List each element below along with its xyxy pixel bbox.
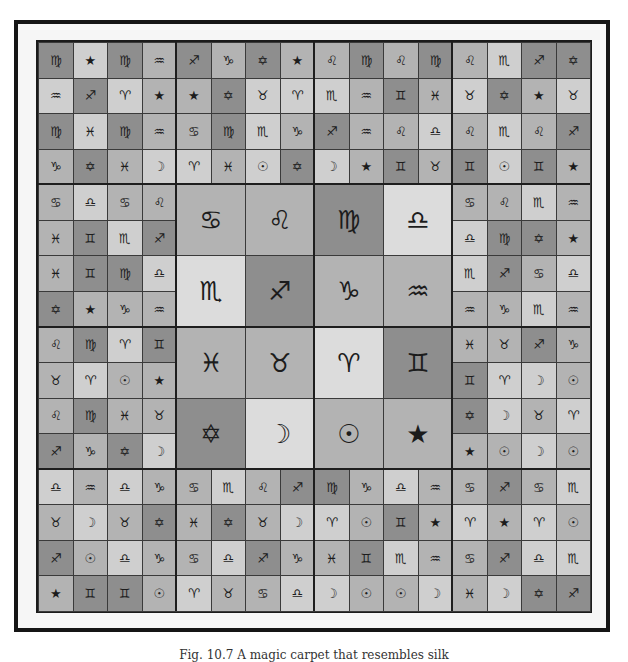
aquarius-tile: ♒ — [142, 113, 178, 150]
cancer-icon: ♋ — [533, 481, 545, 494]
sagittarius-icon: ♐ — [498, 481, 510, 494]
scorpio-tile: ♏ — [556, 540, 592, 577]
block-divider-horizontal — [38, 468, 590, 470]
aquarius-tile: ♒ — [556, 291, 592, 328]
pisces-icon: ♓ — [464, 587, 476, 600]
gemini-icon: ♊ — [464, 374, 476, 387]
sagittarius-tile: ♐ — [73, 78, 109, 115]
aries-icon: ♈ — [498, 374, 510, 387]
cancer-tile: ♋ — [452, 540, 488, 577]
cancer-tile: ♋ — [107, 184, 143, 221]
leo-tile: ♌ — [521, 113, 557, 150]
libra-tile: ♎ — [142, 255, 178, 292]
leo-icon: ♌ — [326, 54, 338, 67]
gemini-tile: ♊ — [73, 575, 109, 612]
scorpio-icon: ♏ — [464, 267, 476, 280]
virgo-tile: ♍ — [38, 113, 74, 150]
hexagram-tile: ✡ — [280, 149, 316, 186]
aquarius-large-tile: ♒ — [383, 255, 453, 327]
hexagram-tile: ✡ — [556, 42, 592, 79]
aquarius-tile: ♒ — [142, 291, 178, 328]
sagittarius-icon: ♐ — [567, 587, 579, 600]
aquarius-icon: ♒ — [406, 278, 429, 304]
libra-tile: ♎ — [383, 469, 419, 506]
moon-icon: ☽ — [291, 516, 303, 529]
gemini-icon: ♊ — [395, 89, 407, 102]
gemini-icon: ♊ — [84, 267, 96, 280]
pisces-tile: ♓ — [107, 149, 143, 186]
sun-icon: ☉ — [360, 587, 372, 600]
hexagram-tile: ✡ — [521, 575, 557, 612]
virgo-tile: ♍ — [73, 327, 109, 364]
hexagram-tile: ✡ — [142, 504, 178, 541]
sagittarius-tile: ♐ — [487, 469, 523, 506]
capricorn-icon: ♑ — [222, 54, 234, 67]
capricorn-icon: ♑ — [567, 338, 579, 351]
moon-icon: ☽ — [326, 160, 338, 173]
aries-tile: ♈ — [521, 504, 557, 541]
sun-tile: ☉ — [487, 433, 523, 470]
libra-icon: ♎ — [395, 481, 407, 494]
leo-tile: ♌ — [452, 42, 488, 79]
libra-large-tile: ♎ — [383, 184, 453, 256]
leo-tile: ♌ — [383, 113, 419, 150]
cancer-tile: ♋ — [452, 469, 488, 506]
sagittarius-icon: ♐ — [50, 552, 62, 565]
magic-carpet-board: ♍★♍♒♐♑✡★♌♍♌♍♌♏♐✡♒♐♈★★✡♉♈♏♒♊♓♉✡★♉♍♓♍♒♋♍♏♑… — [36, 40, 592, 613]
libra-tile: ♎ — [556, 255, 592, 292]
gemini-tile: ♊ — [73, 255, 109, 292]
aquarius-icon: ♒ — [153, 303, 165, 316]
sagittarius-icon: ♐ — [567, 125, 579, 138]
leo-tile: ♌ — [383, 42, 419, 79]
aries-tile: ♈ — [556, 398, 592, 435]
leo-tile: ♌ — [38, 398, 74, 435]
libra-icon: ♎ — [533, 552, 545, 565]
star-tile: ★ — [556, 149, 592, 186]
aquarius-icon: ♒ — [567, 196, 579, 209]
sun-icon: ☉ — [395, 587, 407, 600]
virgo-icon: ♍ — [498, 232, 510, 245]
cancer-icon: ♋ — [50, 196, 62, 209]
aries-tile: ♈ — [280, 78, 316, 115]
leo-tile: ♌ — [487, 184, 523, 221]
pisces-tile: ♓ — [38, 220, 74, 257]
sun-tile: ☉ — [107, 362, 143, 399]
gemini-icon: ♊ — [84, 587, 96, 600]
capricorn-tile: ♑ — [211, 42, 247, 79]
sun-icon: ☉ — [337, 421, 360, 447]
hexagram-tile: ✡ — [521, 220, 557, 257]
star-tile: ★ — [142, 362, 178, 399]
capricorn-tile: ♑ — [142, 469, 178, 506]
sun-tile: ☉ — [556, 504, 592, 541]
taurus-tile: ♉ — [556, 78, 592, 115]
gemini-icon: ♊ — [395, 516, 407, 529]
leo-icon: ♌ — [464, 125, 476, 138]
gemini-tile: ♊ — [452, 149, 488, 186]
moon-icon: ☽ — [268, 421, 291, 447]
hexagram-icon: ✡ — [223, 516, 234, 529]
sun-tile: ☉ — [349, 575, 385, 612]
sagittarius-icon: ♐ — [498, 552, 510, 565]
star-icon: ★ — [533, 89, 545, 102]
scorpio-icon: ♏ — [533, 196, 545, 209]
capricorn-large-tile: ♑ — [314, 255, 384, 327]
cancer-tile: ♋ — [245, 575, 281, 612]
scorpio-icon: ♏ — [567, 481, 579, 494]
gemini-tile: ♊ — [452, 362, 488, 399]
scorpio-icon: ♏ — [199, 278, 222, 304]
leo-icon: ♌ — [533, 125, 545, 138]
sagittarius-large-tile: ♐ — [245, 255, 315, 327]
leo-tile: ♌ — [452, 113, 488, 150]
pisces-icon: ♓ — [84, 125, 96, 138]
scorpio-tile: ♏ — [521, 184, 557, 221]
libra-icon: ♎ — [222, 552, 234, 565]
taurus-tile: ♉ — [38, 362, 74, 399]
capricorn-tile: ♑ — [107, 291, 143, 328]
hexagram-icon: ✡ — [119, 445, 130, 458]
libra-tile: ♎ — [418, 113, 454, 150]
gemini-icon: ♊ — [533, 160, 545, 173]
leo-icon: ♌ — [498, 196, 510, 209]
aquarius-tile: ♒ — [452, 291, 488, 328]
star-tile: ★ — [418, 504, 454, 541]
aries-large-tile: ♈ — [314, 327, 384, 399]
